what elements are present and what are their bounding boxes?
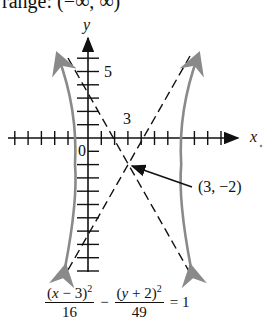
x-axis-label: x [249, 128, 257, 145]
fraction-x: (x − 3)2 16 [45, 284, 94, 321]
fraction-y: (y + 2)2 49 [115, 284, 164, 321]
x-tick-label-3: 3 [123, 110, 131, 127]
hyperbola-branches [58, 56, 198, 268]
center-annotation-arrow [132, 166, 192, 187]
fraction-x-denominator: 16 [62, 303, 77, 321]
hyperbola-equation: (x − 3)2 16 − (y + 2)2 49 = 1 [42, 284, 192, 321]
minus-sign: − [100, 294, 108, 311]
x-axis-label-dot [260, 145, 263, 148]
y-tick-label-5: 5 [104, 63, 112, 80]
asymptote-positive-slope [68, 56, 190, 270]
equals-one: = 1 [170, 294, 190, 311]
fraction-y-numerator: (y + 2)2 [115, 284, 164, 303]
hyperbola-graph: y x 5 3 0 (3, −2) [0, 0, 267, 331]
origin-label: 0 [78, 142, 86, 159]
x-axis [8, 131, 238, 145]
fraction-x-numerator: (x − 3)2 [45, 284, 94, 303]
fraction-y-denominator: 49 [132, 303, 147, 321]
asymptote-negative-slope [68, 58, 190, 273]
hyperbola-right-branch [181, 56, 198, 268]
y-axis-label: y [81, 16, 91, 34]
hyperbola-left-branch [58, 56, 76, 268]
center-point-label: (3, −2) [198, 178, 242, 196]
